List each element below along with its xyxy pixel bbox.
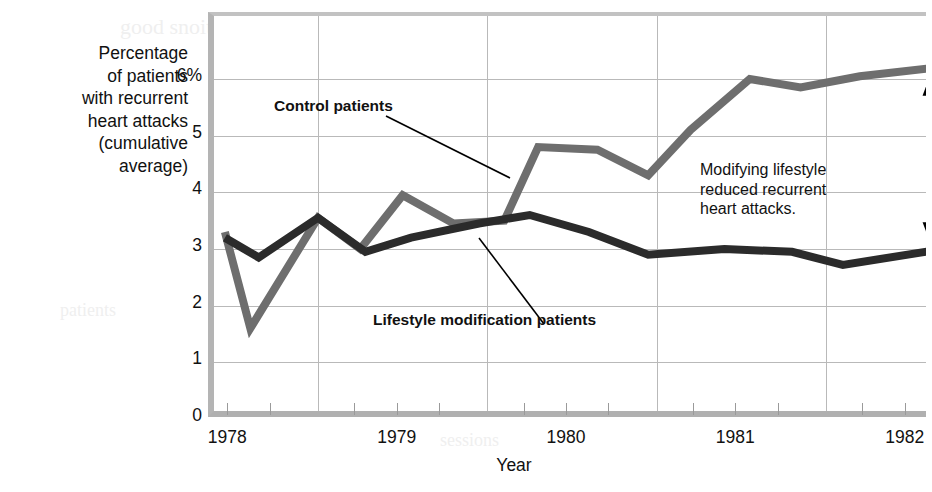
- annotation-line: reduced recurrent: [700, 180, 860, 200]
- x-tick-label: 1980: [521, 427, 611, 448]
- arrow-head: [923, 76, 926, 96]
- y-axis-title-line: Percentage: [8, 42, 188, 65]
- y-tick-label: 3: [146, 235, 202, 256]
- scan-ghost-text: patients: [60, 300, 116, 321]
- y-axis-title-line: average): [8, 155, 188, 178]
- y-tick-label: 4: [146, 178, 202, 199]
- annotation-line: heart attacks.: [700, 199, 860, 219]
- y-axis-title-line: with recurrent: [8, 87, 188, 110]
- scan-ghost-text: sessions: [440, 430, 499, 451]
- x-tick-label: 1979: [352, 427, 442, 448]
- x-tick-label: 1978: [182, 427, 272, 448]
- y-tick-label: 2: [146, 291, 202, 312]
- y-axis-title-line: (cumulative: [8, 132, 188, 155]
- annotation-control-patients: Control patients: [274, 96, 393, 116]
- annotation-reduced-attacks: Modifying lifestylereduced recurrenthear…: [700, 160, 860, 219]
- x-tick-label: 1982: [860, 427, 932, 448]
- y-tick-label: 1: [146, 348, 202, 369]
- annotation-lifestyle-patients: Lifestyle modification patients: [373, 310, 596, 330]
- arrow-head: [923, 222, 926, 242]
- y-tick-label: 0: [146, 405, 202, 426]
- y-axis-title-line: of patients: [8, 65, 188, 88]
- x-tick-label: 1981: [690, 427, 780, 448]
- x-axis-title-text: Year: [496, 455, 531, 476]
- y-axis-title: Percentageof patientswith recurrentheart…: [8, 42, 188, 177]
- y-axis-title-line: heart attacks: [8, 110, 188, 133]
- annotation-line: Modifying lifestyle: [700, 160, 860, 180]
- x-axis-title: Year: [0, 455, 932, 476]
